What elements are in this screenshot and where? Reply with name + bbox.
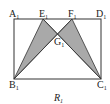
label-a: A1 xyxy=(9,8,19,20)
label-f: F1 xyxy=(68,8,77,20)
shaded-triangle-left xyxy=(14,19,58,79)
figure-caption: R1 xyxy=(53,92,63,104)
label-c: C1 xyxy=(97,79,107,91)
shaded-triangle-right xyxy=(58,19,102,79)
label-e: E1 xyxy=(39,8,48,20)
label-d: D1 xyxy=(96,8,106,20)
label-b: B1 xyxy=(9,79,19,91)
rectangle-abcd xyxy=(14,19,101,79)
geometry-figure: A1 E1 F1 D1 G1 B1 C1 R1 xyxy=(0,0,110,104)
